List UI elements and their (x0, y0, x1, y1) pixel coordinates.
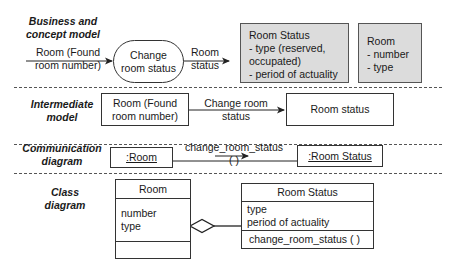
section-label-class: Class diagram (30, 186, 100, 212)
section-label-business: Business and concept model (10, 15, 116, 41)
class-room-status-attribute: period of actuality (247, 216, 373, 229)
intermediate-target-box: Room status (286, 93, 394, 126)
intermediate-source-label: Room (Found room number) (110, 97, 180, 123)
section-label-intermediate: Intermediate model (30, 98, 94, 124)
entity-room-status-title: Room Status (249, 29, 348, 42)
entity-room-status-line: - period of actuality (249, 68, 348, 81)
class-room-status-operation: change_room_status ( ) (249, 233, 373, 246)
process-label: Change room status (121, 49, 176, 75)
entity-room-status-line: - type (reserved, (249, 42, 348, 55)
intermediate-target-label: Room status (311, 103, 370, 116)
class-room-attribute: number (121, 207, 190, 220)
class-room-attributes: number type (116, 198, 190, 241)
intermediate-arrow-label: Change room status (200, 97, 272, 123)
intermediate-source-box: Room (Found room number) (101, 93, 189, 126)
output-flow-label: Room status (186, 46, 224, 72)
object-room-label: :Room (126, 151, 157, 164)
class-room-status-attribute: type (247, 203, 373, 216)
entity-room-line: - number (367, 48, 421, 61)
separator-3 (14, 173, 442, 174)
entity-room-status: Room Status - type (reserved, occupated)… (240, 23, 349, 83)
class-room-status-name: Room Status (242, 184, 373, 201)
class-room-status: Room Status type period of actuality cha… (241, 183, 374, 249)
class-room: Room number type (115, 179, 191, 259)
aggregation-diamond (190, 220, 214, 233)
class-room-operations (116, 241, 190, 258)
section-label-communication: Communication diagram (22, 142, 102, 168)
class-room-status-operations: change_room_status ( ) (242, 230, 373, 248)
class-room-status-attributes: type period of actuality (242, 201, 373, 230)
entity-room-status-line: occupated) (249, 55, 348, 68)
communication-object-room: :Room (110, 147, 173, 168)
entity-room-title: Room (367, 35, 421, 48)
object-room-status-label: :Room Status (308, 150, 372, 163)
class-room-name: Room (116, 180, 190, 198)
class-room-attribute: type (121, 220, 190, 233)
process-change-room-status: Change room status (113, 40, 184, 83)
communication-message: change_room_status ( ) (184, 141, 284, 167)
communication-object-room-status: :Room Status (297, 145, 383, 167)
entity-room-line: - type (367, 61, 421, 74)
input-flow-label: Room (Found room number) (30, 46, 106, 72)
separator-1 (14, 87, 442, 88)
entity-room: Room - number - type (358, 23, 422, 83)
